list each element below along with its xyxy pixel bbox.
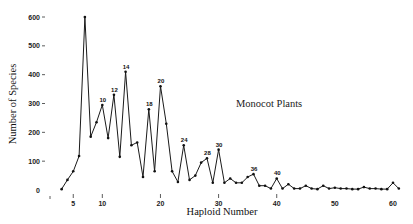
data-point — [374, 187, 377, 190]
data-point — [339, 187, 342, 190]
data-point — [351, 188, 354, 191]
data-point — [118, 156, 121, 159]
point-label: 28 — [204, 150, 211, 156]
data-point — [357, 188, 360, 191]
data-point — [130, 144, 133, 147]
y-axis-title: Number of Species — [7, 64, 18, 144]
data-point — [171, 170, 174, 173]
data-points — [60, 16, 400, 191]
data-point — [142, 176, 145, 179]
data-point — [368, 187, 371, 190]
data-point — [124, 70, 127, 73]
point-label: 30 — [216, 142, 223, 148]
chart-annotation: Monocot Plants — [236, 98, 302, 109]
data-point — [363, 186, 366, 189]
data-point — [113, 94, 116, 97]
data-point — [246, 176, 249, 179]
data-point — [293, 187, 296, 190]
point-label: 10 — [99, 97, 106, 103]
data-point — [299, 187, 302, 190]
data-point — [287, 183, 290, 186]
chart: 0100200300400500600 5102030405060 101214… — [0, 0, 413, 224]
x-tick-label: 60 — [389, 200, 397, 207]
data-point — [229, 177, 232, 180]
data-point — [328, 187, 331, 190]
data-point — [200, 161, 203, 164]
point-label: 18 — [146, 101, 153, 107]
point-label: 20 — [158, 78, 165, 84]
data-point — [84, 16, 87, 19]
data-point — [101, 104, 104, 107]
y-tick-label: 100 — [28, 158, 40, 165]
y-tick-label: 400 — [28, 71, 40, 78]
data-point — [217, 148, 220, 151]
data-point — [107, 137, 110, 140]
x-tick-label: 20 — [157, 200, 165, 207]
data-point — [89, 135, 92, 138]
data-point — [241, 181, 244, 184]
data-point — [270, 187, 273, 190]
x-tick-label: 40 — [273, 200, 281, 207]
x-tick-label: 5 — [71, 200, 75, 207]
point-label: 40 — [274, 170, 281, 176]
data-point — [159, 85, 162, 88]
data-point — [310, 187, 313, 190]
point-label: 24 — [181, 137, 188, 143]
data-point — [206, 157, 209, 160]
y-tick-label: 500 — [28, 42, 40, 49]
data-point — [235, 181, 238, 184]
data-point — [316, 188, 319, 191]
data-point — [223, 181, 226, 184]
data-point — [281, 187, 284, 190]
data-point — [177, 181, 180, 184]
point-label: 12 — [111, 87, 118, 93]
y-tick-label: 200 — [28, 129, 40, 136]
data-point — [66, 179, 69, 182]
data-point — [165, 122, 168, 125]
data-point — [392, 181, 395, 184]
data-point — [380, 188, 383, 191]
y-axis-ticks: 0100200300400500600 — [28, 14, 45, 194]
data-point — [78, 155, 81, 158]
data-point — [148, 108, 151, 111]
data-point — [153, 170, 156, 173]
data-point — [275, 177, 278, 180]
data-point — [95, 121, 98, 124]
point-label: 36 — [251, 166, 258, 172]
data-point — [60, 188, 63, 191]
x-tick-label: 50 — [331, 200, 339, 207]
data-point — [386, 188, 389, 191]
data-point — [211, 181, 214, 184]
data-point — [334, 186, 337, 189]
data-point — [398, 187, 401, 190]
data-point — [188, 179, 191, 182]
data-point — [258, 184, 261, 187]
point-label: 14 — [123, 64, 130, 70]
data-point — [264, 184, 267, 187]
y-tick-label: 0 — [36, 187, 40, 194]
data-line — [62, 17, 399, 189]
data-point — [345, 187, 348, 190]
data-point — [252, 173, 255, 176]
x-tick-label: 10 — [98, 200, 106, 207]
y-tick-label: 600 — [28, 14, 40, 21]
data-point — [194, 174, 197, 177]
x-axis-title: Haploid Number — [187, 206, 258, 217]
data-point — [72, 170, 75, 173]
data-point — [304, 184, 307, 187]
y-tick-label: 300 — [28, 100, 40, 107]
data-point — [182, 144, 185, 147]
data-point — [136, 141, 139, 144]
data-point — [322, 184, 325, 187]
